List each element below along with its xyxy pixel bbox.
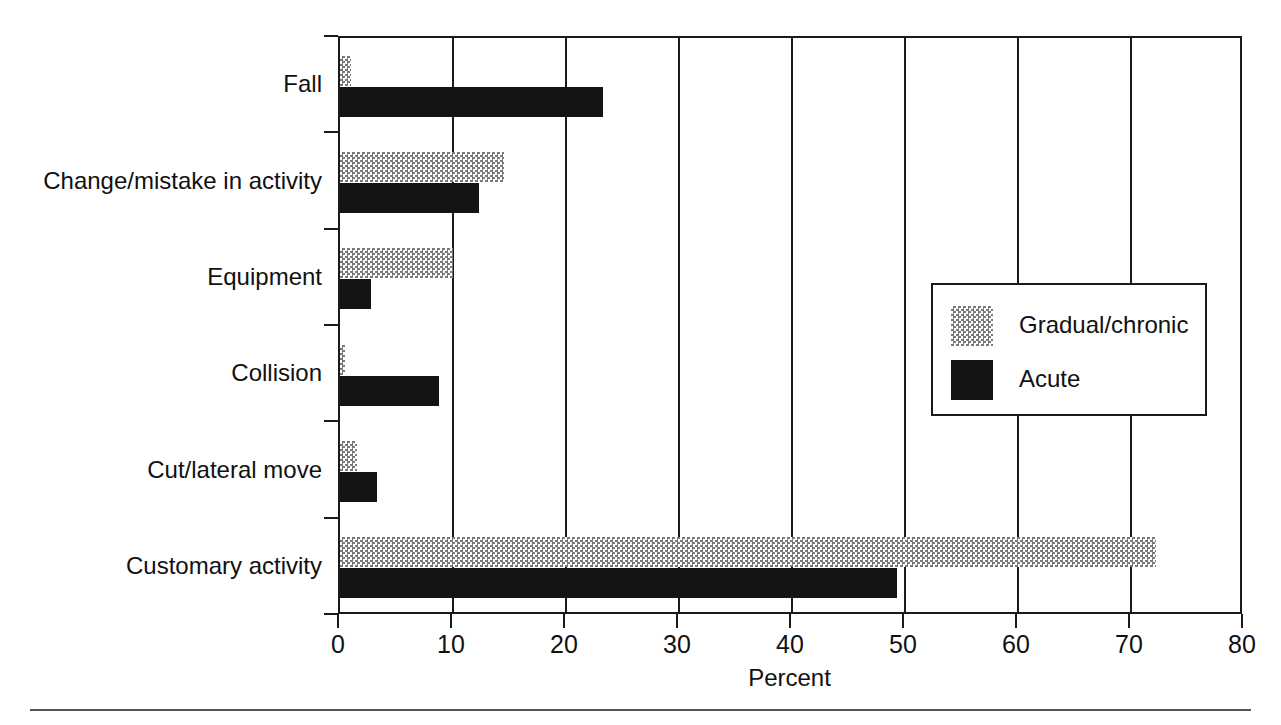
bar-acute-customary-activity	[340, 568, 897, 598]
x-axis-tick	[337, 614, 339, 628]
category-label-cut-lateral-move: Cut/lateral move	[2, 457, 322, 483]
legend-label: Acute	[1019, 363, 1080, 395]
x-axis-tick-label: 50	[873, 630, 933, 658]
gridline	[904, 38, 906, 612]
x-axis-tick	[1241, 614, 1243, 628]
legend-swatch-icon	[951, 360, 993, 400]
x-axis-tick-label: 70	[1099, 630, 1159, 658]
legend-swatch-icon	[951, 306, 993, 346]
category-label-customary-activity: Customary activity	[2, 553, 322, 579]
x-axis-title-text: Percent	[748, 664, 831, 691]
category-separator-tick	[324, 517, 338, 519]
category-label-equipment: Equipment	[2, 264, 322, 290]
x-axis-tick	[450, 614, 452, 628]
bar-gradual-chronic-collision	[340, 345, 345, 375]
x-axis-tick	[676, 614, 678, 628]
bar-acute-fall	[340, 87, 603, 117]
category-separator-tick	[324, 613, 338, 615]
x-axis-tick-label: 40	[760, 630, 820, 658]
bar-gradual-chronic-change-mistake-in-activity	[340, 152, 504, 182]
bar-gradual-chronic-fall	[340, 56, 351, 86]
chart-legend: Gradual/chronicAcute	[931, 283, 1207, 416]
category-separator-tick	[324, 228, 338, 230]
x-axis-tick	[789, 614, 791, 628]
bar-gradual-chronic-cut-lateral-move	[340, 441, 357, 471]
bar-gradual-chronic-equipment	[340, 248, 453, 278]
gridline	[452, 38, 454, 612]
bar-acute-cut-lateral-move	[340, 472, 377, 502]
bar-chart-figure: FallChange/mistake in activityEquipmentC…	[0, 0, 1281, 725]
gridline	[678, 38, 680, 612]
x-axis-tick-label: 80	[1212, 630, 1272, 658]
gridline	[791, 38, 793, 612]
category-separator-tick	[324, 35, 338, 37]
x-axis-tick	[902, 614, 904, 628]
category-separator-tick	[324, 420, 338, 422]
legend-label: Gradual/chronic	[1019, 309, 1188, 341]
x-axis-tick-label: 20	[534, 630, 594, 658]
x-axis-tick	[563, 614, 565, 628]
x-axis-tick-label: 0	[308, 630, 368, 658]
bar-gradual-chronic-customary-activity	[340, 537, 1156, 567]
category-separator-tick	[324, 131, 338, 133]
x-axis-title: Percent	[0, 664, 1281, 692]
footer-rule	[30, 709, 1251, 711]
category-label-collision: Collision	[2, 360, 322, 386]
category-separator-tick	[324, 324, 338, 326]
x-axis-tick	[1128, 614, 1130, 628]
x-axis-tick-label: 10	[421, 630, 481, 658]
category-label-change-mistake-in-activity: Change/mistake in activity	[2, 168, 322, 194]
bar-acute-collision	[340, 376, 439, 406]
bar-acute-change-mistake-in-activity	[340, 183, 479, 213]
category-label-fall: Fall	[2, 71, 322, 97]
gridline	[565, 38, 567, 612]
bar-acute-equipment	[340, 279, 371, 309]
category-axis-labels: FallChange/mistake in activityEquipmentC…	[0, 36, 322, 614]
x-axis-tick	[1015, 614, 1017, 628]
x-axis-tick-label: 30	[647, 630, 707, 658]
x-axis-tick-label: 60	[986, 630, 1046, 658]
